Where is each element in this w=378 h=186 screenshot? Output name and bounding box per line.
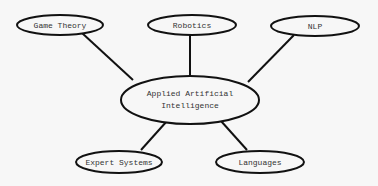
edge-expert-systems bbox=[141, 121, 167, 150]
node-label: Expert Systems bbox=[85, 158, 152, 167]
node-languages: Languages bbox=[216, 151, 304, 173]
node-center-applied-ai: Applied Artificial Intelligence bbox=[121, 76, 259, 124]
center-label-line2: Intelligence bbox=[161, 101, 219, 110]
edge-game-theory bbox=[82, 33, 133, 80]
center-label-line1: Applied Artificial bbox=[147, 89, 234, 98]
mind-map-diagram: Game Theory Robotics NLP Expert Systems … bbox=[0, 0, 378, 186]
node-expert-systems: Expert Systems bbox=[76, 151, 162, 173]
node-robotics: Robotics bbox=[148, 15, 236, 35]
node-game-theory: Game Theory bbox=[17, 15, 103, 35]
edge-languages bbox=[221, 121, 247, 150]
node-label: Game Theory bbox=[34, 21, 87, 30]
node-shape bbox=[121, 76, 259, 124]
node-label: Robotics bbox=[173, 21, 212, 30]
node-label: Languages bbox=[238, 158, 281, 167]
node-nlp: NLP bbox=[271, 16, 359, 36]
edge-nlp bbox=[248, 35, 294, 82]
node-label: NLP bbox=[308, 22, 323, 31]
